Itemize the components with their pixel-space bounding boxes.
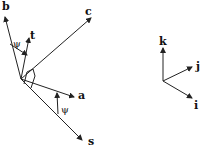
vector-i	[163, 81, 192, 98]
vector-a	[21, 79, 74, 97]
label-a: a	[78, 89, 85, 102]
right-frame: k j i	[159, 35, 200, 112]
label-psi-lower: ψ	[61, 104, 69, 115]
label-k: k	[159, 35, 167, 48]
label-t: t	[30, 29, 36, 42]
vector-j	[163, 67, 192, 81]
label-i: i	[194, 99, 198, 112]
diagram-canvas: b t c a s ψ ψ k j i	[0, 0, 209, 151]
left-frame: b t c a s ψ ψ	[2, 0, 94, 148]
label-j: j	[195, 60, 200, 73]
psi-arc-lower	[57, 93, 58, 114]
label-psi-upper: ψ	[13, 38, 21, 49]
label-s: s	[88, 135, 94, 148]
vector-s	[21, 79, 82, 140]
label-b: b	[2, 0, 10, 13]
label-c: c	[85, 5, 92, 18]
